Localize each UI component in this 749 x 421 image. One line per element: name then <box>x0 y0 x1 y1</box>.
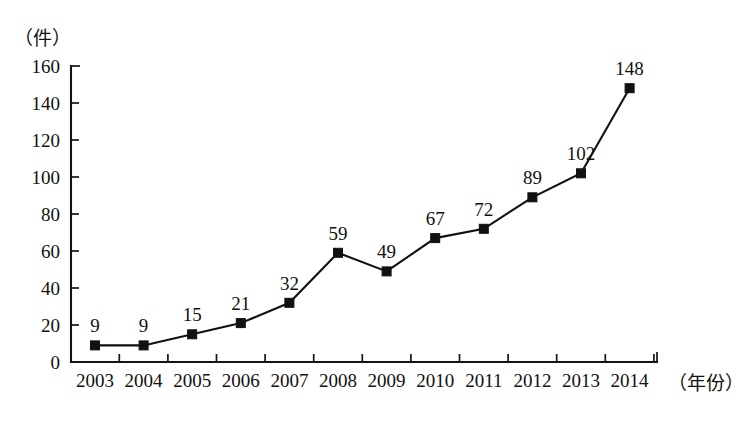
y-tick-label: 60 <box>41 241 60 262</box>
data-point-marker <box>188 330 197 339</box>
data-point-marker <box>625 84 634 93</box>
data-point-marker <box>528 193 537 202</box>
y-axis-unit-label: （件） <box>14 28 71 49</box>
x-tick-label: 2003 <box>76 370 114 391</box>
x-tick-label: 2004 <box>125 370 164 391</box>
x-tick-label: 2014 <box>611 370 650 391</box>
x-tick-label: 2013 <box>562 370 600 391</box>
x-axis-unit-label: （年份） <box>668 373 744 394</box>
x-tick-label: 2007 <box>270 370 308 391</box>
x-tick-label: 2010 <box>416 370 454 391</box>
data-point-marker <box>285 298 294 307</box>
data-point-marker <box>334 248 343 257</box>
data-point-label: 67 <box>426 208 445 229</box>
chart-canvas: （件） 020406080100120140160 20032004200520… <box>0 0 749 421</box>
x-tick-label: 2006 <box>222 370 260 391</box>
y-tick-label: 80 <box>41 204 60 225</box>
y-tick-label: 100 <box>32 167 61 188</box>
x-tick-label: 2011 <box>465 370 502 391</box>
data-point-marker <box>577 169 586 178</box>
data-point-marker <box>431 234 440 243</box>
line-chart: （件） 020406080100120140160 20032004200520… <box>0 0 749 421</box>
data-point-label: 21 <box>231 293 250 314</box>
data-point-marker <box>479 224 488 233</box>
x-tick-label: 2009 <box>368 370 406 391</box>
x-tick-label: 2005 <box>173 370 211 391</box>
data-point-label: 9 <box>139 315 149 336</box>
y-tick-label: 0 <box>51 352 61 373</box>
data-point-label: 15 <box>183 304 202 325</box>
data-point-label: 102 <box>567 143 596 164</box>
data-point-marker <box>236 319 245 328</box>
data-point-label: 148 <box>615 58 644 79</box>
data-point-marker <box>91 341 100 350</box>
x-tick-label: 2008 <box>319 370 357 391</box>
y-tick-label: 140 <box>32 93 61 114</box>
data-point-label: 9 <box>90 315 100 336</box>
data-point-label: 89 <box>523 167 542 188</box>
data-point-label: 49 <box>377 241 396 262</box>
y-tick-label: 40 <box>41 278 60 299</box>
y-tick-label: 20 <box>41 315 60 336</box>
x-tick-label: 2012 <box>513 370 551 391</box>
y-tick-label: 120 <box>32 130 61 151</box>
data-point-label: 59 <box>329 223 348 244</box>
data-point-marker <box>382 267 391 276</box>
y-tick-label: 160 <box>32 56 61 77</box>
data-point-label: 72 <box>474 199 493 220</box>
data-point-label: 32 <box>280 273 299 294</box>
data-point-marker <box>139 341 148 350</box>
